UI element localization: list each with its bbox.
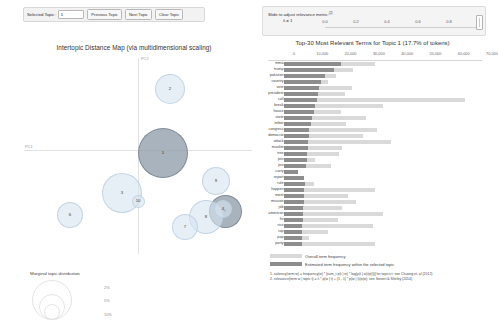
bar-row[interactable]: carry — [258, 169, 487, 175]
legend-label-estimated: Estimated term frequency within the sele… — [305, 262, 394, 267]
bar-row[interactable]: house — [258, 109, 487, 115]
bar-row[interactable]: fix — [258, 217, 487, 223]
bar-row[interactable]: happen — [258, 187, 487, 193]
topic-bubble-label: 3 — [121, 191, 123, 195]
slider-tick-0-6: 0.6 — [415, 19, 421, 24]
bar-topic-frequency — [284, 140, 308, 144]
bar-row[interactable]: pop — [258, 235, 487, 241]
bar-track — [284, 242, 482, 246]
bar-row[interactable]: congress — [258, 127, 487, 133]
relevance-slider-track[interactable] — [325, 27, 480, 28]
topic-bubble-6[interactable]: 6 — [57, 202, 83, 228]
bar-row[interactable]: break — [258, 103, 487, 109]
bar-track — [284, 140, 482, 144]
bar-term-label: mission — [271, 199, 284, 205]
topic-bubble-label: 2 — [169, 87, 171, 91]
bar-track — [284, 164, 482, 168]
x-axis-tick-0: 0 — [293, 51, 295, 56]
bar-term-label: attack — [274, 139, 284, 145]
bar-track — [284, 80, 482, 84]
bar-row[interactable]: attack — [258, 139, 487, 145]
bar-track — [284, 152, 482, 156]
bar-term-label: inibar — [274, 121, 283, 127]
bar-track — [284, 176, 482, 180]
marginal-topic-distribution-legend: Marginal topic distribution 2% 5% 10% — [30, 271, 170, 324]
bar-row[interactable]: muslim — [258, 145, 487, 151]
bar-track — [284, 182, 482, 186]
bar-row[interactable]: mma — [258, 61, 487, 67]
legend-swatch-overall — [270, 254, 302, 259]
bar-row[interactable]: tree — [258, 151, 487, 157]
bar-term-label: american — [268, 211, 283, 217]
bar-row[interactable]: rule — [258, 181, 487, 187]
bar-track — [284, 110, 482, 114]
bar-topic-frequency — [284, 212, 303, 216]
bar-row[interactable]: join — [258, 157, 487, 163]
bar-topic-frequency — [284, 134, 309, 138]
bar-topic-frequency — [284, 170, 298, 174]
bar-track — [284, 230, 482, 234]
bar-track — [284, 188, 482, 192]
slider-tick-0-0: 0.0 — [322, 19, 328, 24]
bar-row[interactable]: call — [258, 97, 487, 103]
topic-bubble-7[interactable]: 7 — [172, 214, 198, 240]
bar-term-label: congress — [269, 127, 284, 133]
bar-row[interactable]: vote — [258, 85, 487, 91]
topic-bubble-9[interactable]: 9 — [202, 167, 230, 195]
bar-row[interactable]: american — [258, 211, 487, 217]
bar-term-label: pro — [278, 163, 283, 169]
bar-topic-frequency — [284, 194, 304, 198]
bar-track — [284, 170, 482, 174]
marginal-circle-10pct — [32, 280, 72, 320]
footnote-relevance: 2. relevance(term w | topic t) = λ * p(w… — [270, 277, 488, 282]
bar-term-label: fix — [280, 217, 284, 223]
bar-topic-frequency — [284, 62, 341, 66]
intertopic-map-title: Intertopic Distance Map (via multidimens… — [10, 44, 258, 51]
bar-term-label: rule — [277, 181, 283, 187]
marginal-tick-2pct: 2% — [104, 285, 110, 290]
bar-row[interactable]: pro — [258, 163, 487, 169]
bar-row[interactable]: mission — [258, 199, 487, 205]
previous-topic-button[interactable]: Previous Topic — [87, 9, 122, 20]
x-axis-tick-10000: 10,000 — [316, 51, 328, 56]
topic-bubble-10[interactable]: 10 — [132, 195, 145, 208]
relevance-slider-label: Slide to adjust relevance metric:(2) — [268, 11, 333, 17]
bar-row[interactable]: meet — [258, 193, 487, 199]
bar-track — [284, 146, 482, 150]
clear-topic-button[interactable]: Clear Topic — [155, 9, 183, 20]
bar-term-label: vote — [277, 85, 284, 91]
bar-topic-frequency — [284, 236, 302, 240]
topic-bubble-label: 8 — [205, 215, 207, 219]
topic-bubble-4[interactable]: 4 — [214, 200, 232, 218]
bar-row[interactable]: president — [258, 91, 487, 97]
bar-term-label: rise — [278, 223, 284, 229]
bar-track — [284, 104, 482, 108]
bar-row[interactable]: job — [258, 205, 487, 211]
bar-term-label: trump — [274, 67, 283, 73]
bar-topic-frequency — [284, 116, 312, 120]
bar-row[interactable]: inibar — [258, 121, 487, 127]
topic-bubble-label: 9 — [215, 179, 217, 183]
bar-row[interactable]: trump — [258, 67, 487, 73]
relevance-slider-handle[interactable] — [476, 15, 483, 30]
bar-row[interactable]: report — [258, 175, 487, 181]
bar-topic-frequency — [284, 188, 304, 192]
bar-row[interactable]: party — [258, 241, 487, 247]
topic-bubble-label: 6 — [69, 213, 71, 217]
topic-bubble-1[interactable]: 1 — [138, 128, 188, 178]
bar-row[interactable]: pakistan — [258, 73, 487, 79]
bar-row[interactable]: top — [258, 229, 487, 235]
bar-row[interactable]: democrat — [258, 133, 487, 139]
bar-term-label: pop — [277, 235, 283, 241]
bar-row[interactable]: country — [258, 79, 487, 85]
topic-bubble-2[interactable]: 2 — [155, 74, 185, 104]
bar-track — [284, 122, 482, 126]
bar-row[interactable]: rise — [258, 223, 487, 229]
next-topic-button[interactable]: Next Topic — [125, 9, 152, 20]
mds-scatter-area[interactable]: PC1 PC2 12310695847 — [10, 56, 258, 266]
marginal-legend-title: Marginal topic distribution — [30, 271, 170, 276]
bar-row[interactable]: state — [258, 115, 487, 121]
intertopic-distance-panel: Intertopic Distance Map (via multidimens… — [10, 28, 258, 302]
selected-topic-input[interactable] — [58, 10, 84, 19]
bar-term-label: pakistan — [270, 73, 284, 79]
